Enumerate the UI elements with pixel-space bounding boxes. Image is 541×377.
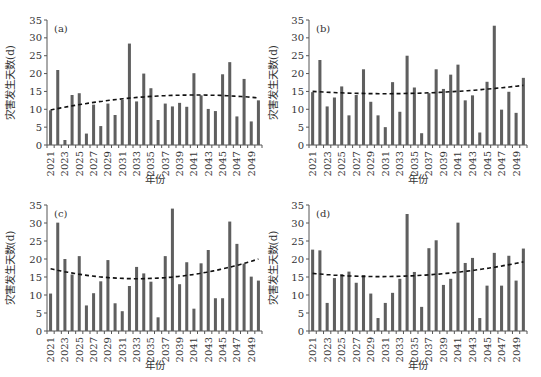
bar [250, 277, 253, 331]
panel-label: (c) [54, 208, 68, 219]
x-tick-label: 2049 [246, 151, 257, 176]
panel-label: (b) [316, 23, 330, 34]
x-tick-label: 2031 [117, 151, 128, 176]
bar [449, 75, 452, 145]
bar [515, 113, 518, 145]
bar [435, 69, 438, 145]
x-axis-title: 年份 [408, 359, 429, 371]
x-tick-label: 2049 [246, 337, 257, 362]
x-tick-label: 2029 [102, 151, 113, 176]
bar [92, 293, 95, 331]
bar [228, 222, 231, 331]
y-tick-label: 0 [36, 326, 42, 337]
bar [56, 70, 59, 145]
y-tick-label: 20 [29, 68, 42, 79]
bar [318, 60, 321, 145]
x-tick-label: 2043 [467, 337, 478, 362]
bar [114, 115, 117, 145]
x-tick-label: 2033 [131, 151, 142, 176]
chart-panel-b: 0510152025303520212023202520272029203120… [263, 0, 541, 188]
y-tick-label: 20 [29, 254, 42, 265]
bar [377, 318, 380, 331]
bar [63, 259, 66, 331]
chart-svg-b: 0510152025303520212023202520272029203120… [263, 0, 541, 188]
y-tick-label: 15 [291, 272, 304, 283]
bar [333, 98, 336, 146]
bar [427, 93, 430, 145]
bar [362, 69, 365, 145]
panel-label: (a) [54, 23, 68, 34]
bar [311, 250, 314, 331]
bar [471, 258, 474, 331]
bar [486, 286, 489, 331]
bar [493, 253, 496, 331]
x-tick-label: 2039 [174, 151, 185, 176]
bar [135, 267, 138, 331]
x-tick-label: 2039 [438, 151, 449, 176]
x-axis-title: 年份 [145, 173, 166, 185]
x-tick-label: 2033 [394, 151, 405, 176]
bar [171, 209, 174, 331]
y-tick-label: 35 [291, 15, 304, 26]
bar [185, 107, 188, 145]
x-tick-label: 2039 [438, 337, 449, 362]
bar [135, 101, 138, 145]
bar [200, 95, 203, 145]
bar [128, 44, 131, 145]
x-tick-label: 2045 [482, 337, 493, 362]
bar [435, 240, 438, 331]
y-tick-label: 35 [29, 15, 42, 26]
chart-svg-a: 0510152025303520212023202520272029203120… [0, 0, 270, 188]
x-tick-label: 2047 [496, 151, 507, 176]
bar [493, 26, 496, 145]
x-tick-label: 2021 [45, 151, 56, 176]
chart-svg-d: 0510152025303520212023202520272029203120… [263, 186, 541, 377]
bar [347, 115, 350, 145]
bar [456, 65, 459, 145]
y-tick-label: 5 [36, 308, 42, 319]
bar [221, 298, 224, 331]
bar [347, 272, 350, 331]
bar [99, 281, 102, 331]
x-tick-label: 2049 [511, 151, 522, 176]
x-tick-label: 2021 [307, 337, 318, 362]
bar [384, 127, 387, 145]
y-tick-label: 30 [291, 32, 304, 43]
bar [398, 279, 401, 331]
x-tick-label: 2029 [365, 337, 376, 362]
y-tick-label: 10 [29, 104, 42, 115]
y-tick-label: 35 [291, 200, 304, 211]
x-tick-label: 2031 [117, 337, 128, 362]
bar [420, 133, 423, 145]
chart-panel-a: 0510152025303520212023202520272029203120… [0, 0, 270, 188]
bar [478, 133, 481, 146]
x-tick-label: 2045 [217, 151, 228, 176]
bar [507, 256, 510, 331]
bar [171, 106, 174, 145]
bar [71, 95, 74, 145]
bar [49, 110, 52, 145]
bar [413, 88, 416, 146]
y-tick-label: 5 [298, 308, 304, 319]
x-tick-label: 2025 [336, 151, 347, 176]
bar [207, 109, 210, 145]
bar [391, 82, 394, 145]
bar [214, 298, 217, 331]
bar [207, 250, 210, 331]
bar [507, 92, 510, 145]
x-tick-label: 2033 [131, 337, 142, 362]
trend-line [313, 262, 524, 277]
bar [355, 95, 358, 145]
bar [228, 62, 231, 145]
x-tick-label: 2027 [351, 151, 362, 176]
bar [420, 307, 423, 331]
bar [63, 140, 66, 145]
bar [326, 303, 329, 331]
y-axis-title: 灾害发生天数(d) [4, 45, 16, 120]
x-tick-label: 2047 [231, 151, 242, 176]
x-tick-label: 2027 [88, 337, 99, 362]
x-axis-title: 年份 [145, 359, 166, 371]
bar [49, 294, 52, 331]
chart-svg-c: 0510152025303520212023202520272029203120… [0, 186, 270, 377]
bar [178, 103, 181, 145]
